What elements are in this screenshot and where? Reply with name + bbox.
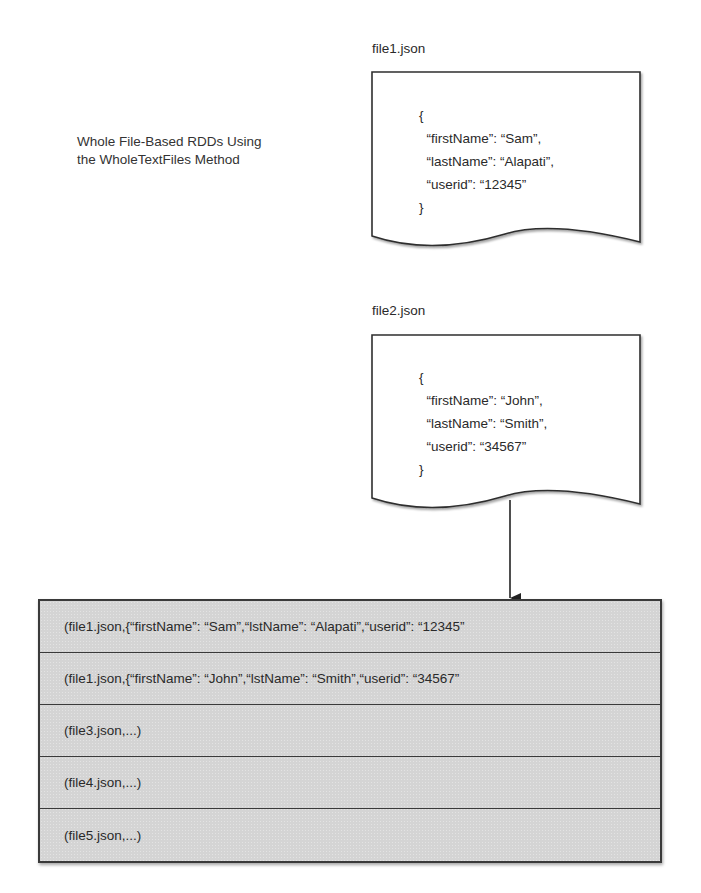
json-line: “firstName”: “John”,	[419, 389, 547, 412]
json-line: “firstName”: “Sam”,	[419, 127, 554, 150]
file2-label: file2.json	[372, 303, 425, 318]
rdd-row: (file1.json,{“firstName”: “John”,“lstNam…	[40, 653, 660, 705]
file1-content: { “firstName”: “Sam”, “lastName”: “Alapa…	[419, 104, 554, 219]
rdd-row: (file3.json,...)	[40, 705, 660, 757]
json-line: }	[419, 458, 547, 481]
file2-content: { “firstName”: “John”, “lastName”: “Smit…	[419, 366, 547, 481]
rdd-row: (file1.json,{“firstName”: “Sam”,“lstName…	[40, 601, 660, 653]
json-line: “lastName”: “Alapati”,	[419, 150, 554, 173]
file1-label: file1.json	[372, 41, 425, 56]
rdd-row: (file5.json,...)	[40, 809, 660, 861]
rdd-row: (file4.json,...)	[40, 757, 660, 809]
json-line: “userid”: “12345”	[419, 173, 554, 196]
json-line: {	[419, 104, 554, 127]
json-line: {	[419, 366, 547, 389]
json-line: }	[419, 196, 554, 219]
rdd-partitions-table: (file1.json,{“firstName”: “Sam”,“lstName…	[38, 599, 662, 863]
json-line: “lastName”: “Smith”,	[419, 412, 547, 435]
json-line: “userid”: “34567”	[419, 435, 547, 458]
